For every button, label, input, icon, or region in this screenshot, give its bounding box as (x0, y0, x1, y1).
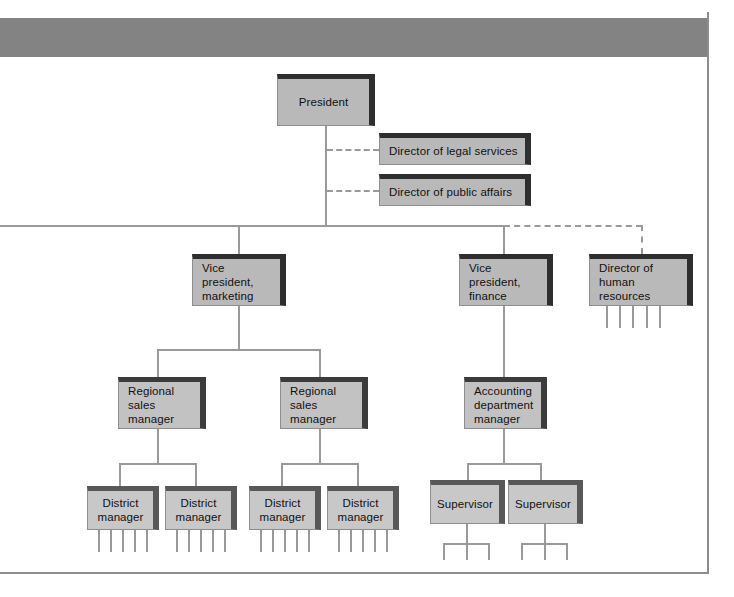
leaf-stub-dm4-2 (350, 530, 352, 552)
connector-executive-bus (0, 225, 504, 227)
node-label: District manager (97, 496, 143, 524)
node-label: Vice president, finance (469, 261, 543, 303)
connector-dashed-hr-vertical (641, 225, 643, 254)
leaf-stub-sup2-right (566, 543, 568, 560)
node-district-manager-2[interactable]: District manager (165, 486, 237, 530)
node-label: Regional sales manager (290, 384, 358, 426)
page-frame-right-border (707, 12, 709, 574)
leaf-stub-dm3-1 (260, 530, 262, 552)
connector-rsm-2-bus (281, 463, 359, 465)
node-label: President (299, 95, 348, 109)
leaf-stub-dm1-1 (98, 530, 100, 552)
node-label: District manager (337, 496, 383, 524)
leaf-stub-sup2-left (521, 543, 523, 560)
node-label: Director of legal services (389, 144, 518, 158)
node-district-manager-4[interactable]: District manager (327, 486, 399, 530)
node-district-manager-3[interactable]: District manager (249, 486, 321, 530)
leaf-stub-hr-3 (632, 306, 634, 328)
node-accounting-department-manager[interactable]: Accounting department manager (464, 377, 547, 429)
node-supervisor-1[interactable]: Supervisor (430, 480, 505, 524)
leaf-stub-sup1-right (488, 543, 490, 560)
node-vice-president-marketing[interactable]: Vice president, marketing (192, 254, 286, 306)
page-frame-bottom-border (0, 572, 709, 574)
node-vice-president-finance[interactable]: Vice president, finance (459, 254, 553, 306)
connector-rsm-1-bus (119, 463, 197, 465)
connector-rsm-1-stem (157, 428, 159, 464)
leaf-stub-hr-4 (646, 306, 648, 328)
connector-vp-finance-stem (503, 305, 505, 378)
leaf-stub-dm2-2 (188, 530, 190, 552)
leaf-stub-dm1-2 (110, 530, 112, 552)
connector-drop-vp-marketing (238, 225, 240, 255)
node-label: District manager (175, 496, 221, 524)
leaf-stub-dm4-3 (362, 530, 364, 552)
connector-dashed-legal-services (327, 149, 379, 151)
leaf-stub-sup2-center (544, 543, 546, 560)
connector-dashed-hr-horizontal (504, 225, 642, 227)
header-bar (0, 18, 707, 57)
connector-dashed-public-affairs (327, 190, 379, 192)
connector-acct-mgr-stem (503, 428, 505, 464)
leaf-stub-dm3-5 (308, 530, 310, 552)
connector-drop-sup-1 (467, 463, 469, 481)
leaf-stub-dm3-3 (284, 530, 286, 552)
leaf-stub-sup1-center (466, 543, 468, 560)
org-chart-page: President Director of legal services Dir… (0, 0, 734, 597)
leaf-stub-dm2-5 (224, 530, 226, 552)
connector-supervisor-1-stem (466, 524, 468, 544)
node-label: Director of human resources (599, 261, 683, 303)
connector-drop-dm-2 (195, 463, 197, 487)
node-regional-sales-manager-1[interactable]: Regional sales manager (118, 377, 206, 429)
connector-supervisor-2-stem (544, 524, 546, 544)
leaf-stub-dm2-3 (200, 530, 202, 552)
leaf-stub-dm2-1 (176, 530, 178, 552)
leaf-stub-dm4-5 (386, 530, 388, 552)
leaf-stub-sup1-left (443, 543, 445, 560)
leaf-stub-dm4-1 (338, 530, 340, 552)
node-regional-sales-manager-2[interactable]: Regional sales manager (280, 377, 368, 429)
node-label: Director of public affairs (389, 185, 512, 199)
leaf-stub-hr-5 (659, 306, 661, 328)
node-director-human-resources[interactable]: Director of human resources (589, 254, 693, 306)
connector-president-stem (325, 125, 327, 226)
node-label: Accounting department manager (474, 384, 533, 426)
connector-acct-bus (467, 463, 542, 465)
node-label: Supervisor (437, 497, 493, 511)
leaf-stub-dm1-3 (122, 530, 124, 552)
leaf-stub-dm4-4 (374, 530, 376, 552)
node-label: Regional sales manager (128, 384, 196, 426)
node-label: Supervisor (515, 497, 571, 511)
leaf-stub-dm1-4 (134, 530, 136, 552)
node-president[interactable]: President (277, 74, 375, 126)
leaf-stub-dm1-5 (146, 530, 148, 552)
connector-drop-dm-3 (281, 463, 283, 487)
connector-drop-vp-finance (503, 225, 505, 255)
leaf-stub-dm2-4 (212, 530, 214, 552)
node-label: Vice president, marketing (202, 261, 276, 303)
connector-drop-dm-1 (119, 463, 121, 487)
connector-drop-dm-4 (357, 463, 359, 487)
node-district-manager-1[interactable]: District manager (87, 486, 159, 530)
leaf-stub-dm3-2 (272, 530, 274, 552)
node-supervisor-2[interactable]: Supervisor (508, 480, 583, 524)
connector-marketing-bus (157, 349, 321, 351)
node-label: District manager (259, 496, 305, 524)
node-director-public-affairs[interactable]: Director of public affairs (379, 174, 531, 206)
leaf-stub-hr-2 (619, 306, 621, 328)
connector-vp-marketing-stem (238, 305, 240, 350)
connector-drop-rsm-1 (157, 349, 159, 378)
node-director-legal-services[interactable]: Director of legal services (379, 133, 531, 165)
connector-drop-rsm-2 (319, 349, 321, 378)
leaf-stub-hr-1 (606, 306, 608, 328)
leaf-stub-dm3-4 (296, 530, 298, 552)
connector-drop-sup-2 (540, 463, 542, 481)
connector-rsm-2-stem (319, 428, 321, 464)
